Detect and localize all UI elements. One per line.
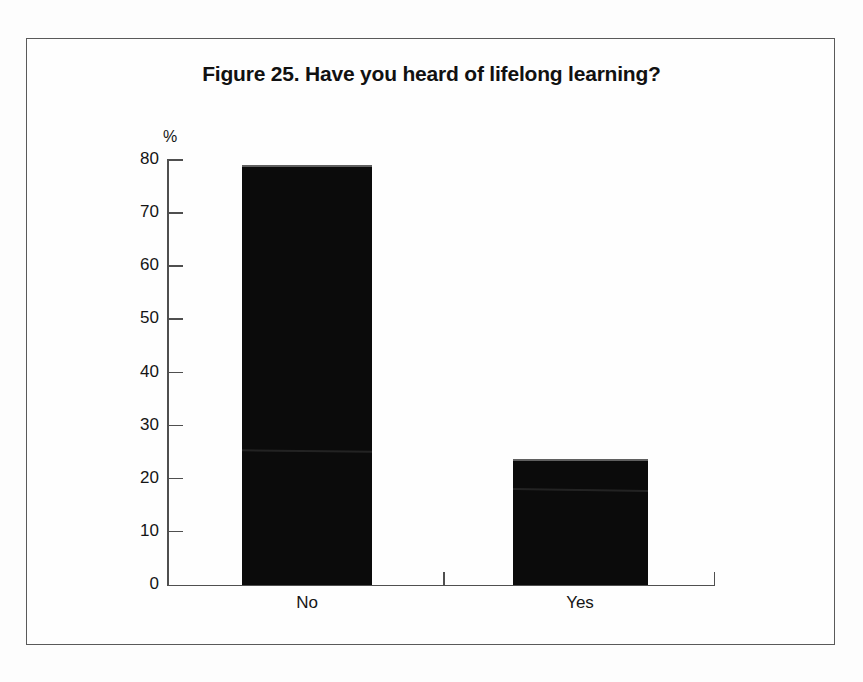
y-tick-label-40: 40 [119, 363, 159, 380]
y-tick-label-80: 80 [119, 150, 159, 167]
y-tick-10 [168, 531, 183, 533]
y-tick-label-10: 10 [119, 522, 159, 539]
x-category-label-no: No [247, 593, 367, 613]
y-tick-50 [168, 318, 183, 320]
y-tick-80 [168, 159, 183, 161]
y-tick-70 [168, 212, 183, 214]
bar-chart-plot: % 80 70 60 50 40 30 20 10 0 [0, 0, 863, 682]
y-tick-label-50: 50 [119, 309, 159, 326]
y-tick-20 [168, 478, 183, 480]
x-tick-category-separator [443, 572, 445, 585]
y-tick-label-20: 20 [119, 469, 159, 486]
bar-no [242, 165, 372, 585]
x-category-label-yes: Yes [520, 593, 640, 613]
y-tick-label-0: 0 [119, 575, 159, 592]
y-tick-label-30: 30 [119, 416, 159, 433]
bar-yes [513, 459, 648, 585]
y-tick-40 [168, 372, 183, 374]
y-tick-label-60: 60 [119, 256, 159, 273]
x-tick-left-end [167, 572, 169, 585]
x-tick-right-end [714, 572, 716, 585]
y-tick-label-70: 70 [119, 203, 159, 220]
y-tick-30 [168, 425, 183, 427]
y-axis-unit-label: % [163, 128, 177, 146]
y-tick-60 [168, 265, 183, 267]
